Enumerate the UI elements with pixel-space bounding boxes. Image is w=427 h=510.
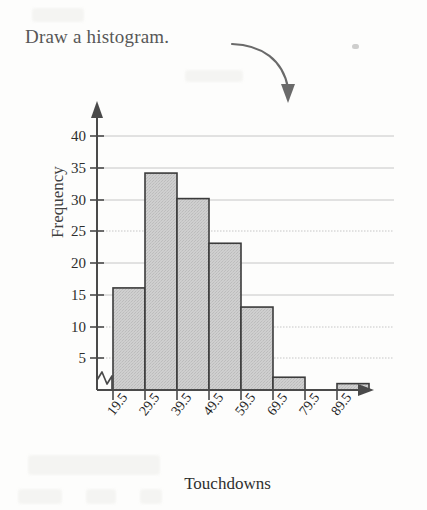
y-axis-title: Frequency: [48, 142, 68, 262]
histogram-bar: [273, 377, 305, 390]
histogram-bar: [241, 307, 273, 390]
histogram-bar: [209, 243, 241, 390]
y-tick-label: 15: [52, 288, 86, 303]
histogram-bar: [177, 199, 209, 390]
histogram-bar: [145, 173, 177, 390]
y-tick-label: 10: [52, 320, 86, 335]
histogram-bar: [113, 288, 145, 390]
x-axis-title: Touchdowns: [115, 474, 340, 494]
y-axis: [91, 101, 103, 390]
axis-break-zigzag-icon: [97, 372, 112, 390]
y-tick-label: 5: [52, 351, 86, 366]
histogram-bars: [113, 173, 369, 390]
